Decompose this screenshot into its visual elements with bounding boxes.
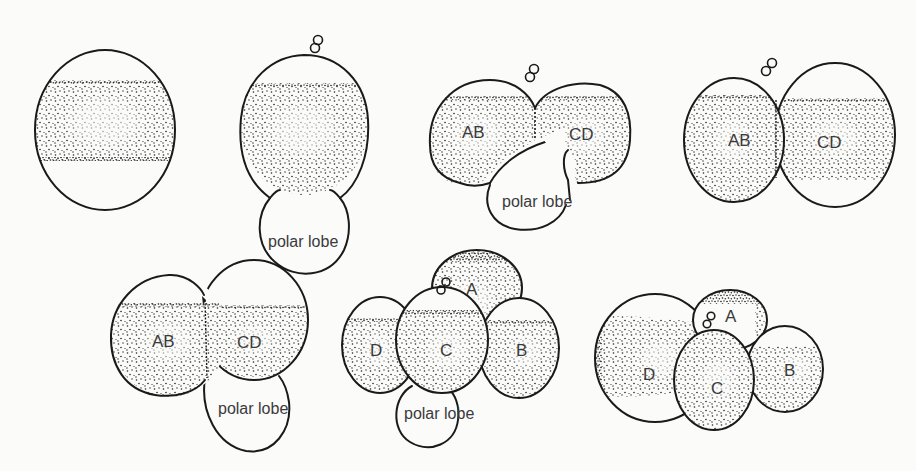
- c-label: C: [440, 341, 452, 360]
- polar-bodies-icon: [526, 65, 539, 82]
- stage-3-trefoil: AB CD polar lobe: [420, 65, 640, 231]
- polar-lobe-label: polar lobe: [268, 233, 338, 250]
- b-cytoplasm: [745, 345, 830, 415]
- polar-lobe-label: polar lobe: [404, 405, 474, 422]
- polar-lobe-label: polar lobe: [218, 400, 288, 417]
- d-label: D: [643, 365, 655, 384]
- stage-7-four-cell: A D C B: [590, 288, 830, 430]
- d-label: D: [370, 341, 382, 360]
- stage-1-zygote: [30, 50, 180, 210]
- b-label: B: [516, 341, 527, 360]
- ab-label: AB: [152, 332, 175, 351]
- b-label: B: [784, 361, 795, 380]
- cleavage-diagram: polar lobe AB CD p: [0, 0, 916, 471]
- ab-label: AB: [462, 123, 485, 142]
- a-label: A: [466, 280, 478, 299]
- stage-2-polar-lobe-forming: polar lobe: [235, 36, 375, 274]
- c-label: C: [711, 379, 723, 398]
- polar-bodies-icon: [762, 59, 777, 76]
- stage-4-two-cell: AB CD: [680, 59, 900, 216]
- stage-6-four-cell-with-lobe: A D C B polar lobe: [335, 250, 565, 448]
- polar-bodies-icon: [311, 36, 323, 53]
- ab-label: AB: [728, 131, 751, 150]
- ab-cytoplasm: [680, 95, 790, 215]
- cd-label: CD: [569, 125, 594, 144]
- a-label: A: [725, 307, 737, 326]
- cd-label: CD: [817, 133, 842, 152]
- diagram-canvas: polar lobe AB CD p: [0, 0, 916, 471]
- stage-5-second-lobe: AB CD polar lobe: [105, 260, 315, 451]
- polar-lobe-label: polar lobe: [502, 193, 572, 210]
- vegetal-cytoplasm-band: [30, 80, 180, 161]
- cd-label: CD: [237, 333, 262, 352]
